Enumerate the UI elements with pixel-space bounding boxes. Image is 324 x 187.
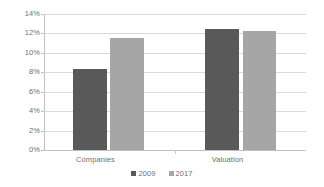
legend-swatch-icon xyxy=(169,171,174,176)
y-axis-tick-labels: 14% 12% 10% 8% 6% 4% 2% 0% xyxy=(0,0,40,187)
plot-area xyxy=(44,14,306,150)
bar-2009-valuation xyxy=(205,29,239,150)
y-tick-label: 12% xyxy=(6,29,40,37)
legend-label: 2009 xyxy=(138,169,155,178)
x-axis-tick-mark xyxy=(175,150,176,154)
bar-chart: 14% 12% 10% 8% 6% 4% 2% 0% Companies Val… xyxy=(0,0,324,187)
gridline xyxy=(44,14,306,15)
x-tick-label-valuation: Valuation xyxy=(185,155,270,164)
legend-item-2009: 2009 xyxy=(131,169,155,178)
y-tick-label: 6% xyxy=(6,88,40,96)
legend-label: 2017 xyxy=(176,169,193,178)
legend-swatch-icon xyxy=(131,171,136,176)
x-tick-label-companies: Companies xyxy=(53,155,138,164)
y-tick-label: 2% xyxy=(6,127,40,135)
bar-2017-valuation xyxy=(243,31,276,151)
y-tick-label: 10% xyxy=(6,49,40,57)
legend-item-2017: 2017 xyxy=(169,169,193,178)
bar-2017-companies xyxy=(110,38,144,150)
y-tick-label: 4% xyxy=(6,107,40,115)
y-tick-label: 8% xyxy=(6,68,40,76)
chart-legend: 2009 2017 xyxy=(0,169,324,178)
y-tick-label: 0% xyxy=(6,146,40,154)
bar-2009-companies xyxy=(73,69,107,150)
y-tick-label: 14% xyxy=(6,10,40,18)
